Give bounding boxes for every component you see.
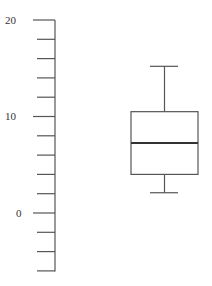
y-axis (33, 20, 55, 271)
y-axis-tick-labels: 20 10 0 (5, 14, 22, 219)
y-tick-label-10: 10 (5, 110, 17, 122)
box-plot-chart: 20 10 0 (0, 0, 212, 286)
y-tick-label-20: 20 (5, 14, 17, 26)
box-series (131, 66, 198, 192)
y-tick-label-0: 0 (16, 207, 22, 219)
